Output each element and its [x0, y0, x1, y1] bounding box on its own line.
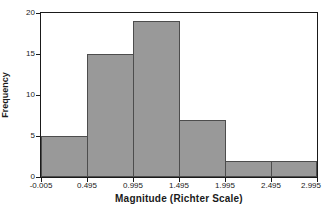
x-tick-label-1: 0.495	[64, 181, 110, 191]
y-tick-mark-3	[36, 54, 40, 55]
x-tick-label-0: -0.005	[18, 181, 64, 191]
plot-area	[40, 12, 318, 178]
histogram-bar-3	[179, 120, 226, 177]
histogram-bar-0	[41, 136, 88, 177]
x-axis-title: Magnitude (Richter Scale)	[41, 193, 317, 204]
x-tick-label-2: 0.995	[110, 181, 156, 191]
y-tick-label-2: 10	[0, 90, 35, 100]
y-tick-label-4: 20	[0, 8, 35, 18]
y-tick-label-3: 15	[0, 49, 35, 59]
x-tick-label-4: 1.995	[202, 181, 248, 191]
histogram-bar-1	[87, 54, 134, 177]
y-tick-mark-1	[36, 136, 40, 137]
y-tick-mark-0	[36, 177, 40, 178]
histogram-bar-4	[225, 161, 272, 177]
histogram-bar-2	[133, 21, 180, 177]
x-tick-label-6: 2.995	[276, 181, 321, 191]
histogram-chart: Frequency 05101520-0.0050.4950.9951.4951…	[0, 0, 326, 217]
y-tick-mark-2	[36, 95, 40, 96]
histogram-bar-5	[271, 161, 317, 177]
y-tick-mark-4	[36, 13, 40, 14]
y-tick-label-1: 5	[0, 131, 35, 141]
x-tick-label-3: 1.495	[156, 181, 202, 191]
